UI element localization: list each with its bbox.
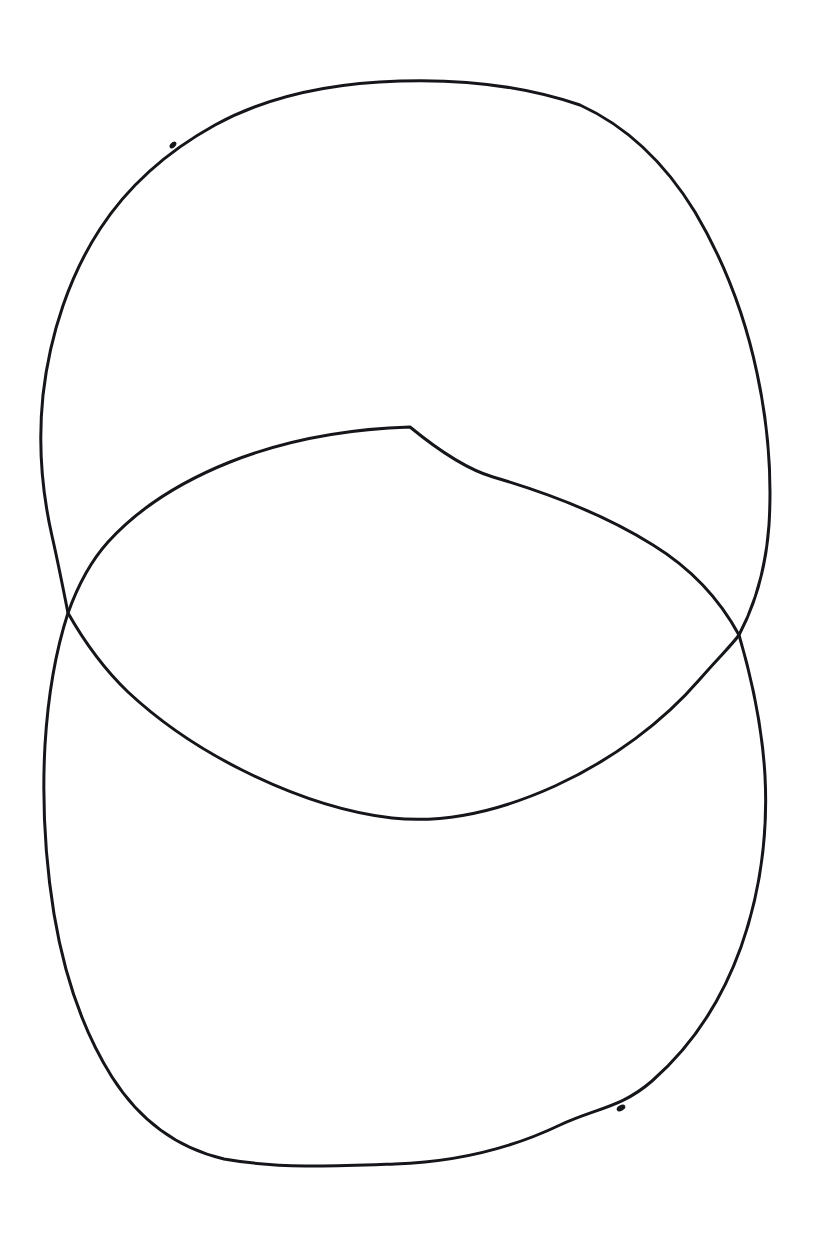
drawing-canvas: • • • • • • • • (0, 0, 816, 1234)
line-drawing (0, 0, 816, 1234)
paper-background (0, 0, 816, 1234)
